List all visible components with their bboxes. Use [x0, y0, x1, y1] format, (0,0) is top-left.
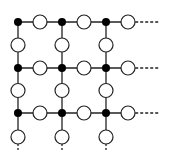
filled-node	[14, 18, 22, 26]
filled-node	[102, 64, 110, 72]
lattice-diagram	[0, 0, 172, 156]
filled-node	[14, 109, 22, 117]
filled-node	[102, 18, 110, 26]
open-node	[33, 106, 47, 120]
open-node	[121, 61, 135, 75]
open-node	[77, 15, 91, 29]
open-node	[77, 61, 91, 75]
open-node	[99, 84, 113, 98]
filled-node	[102, 109, 110, 117]
open-node	[11, 38, 25, 52]
open-node	[55, 130, 69, 144]
open-node	[55, 38, 69, 52]
open-node	[121, 106, 135, 120]
open-node	[33, 61, 47, 75]
open-node	[11, 84, 25, 98]
filled-node	[14, 64, 22, 72]
filled-node	[58, 18, 66, 26]
open-node	[33, 15, 47, 29]
open-node	[55, 84, 69, 98]
open-node	[121, 15, 135, 29]
filled-node	[58, 64, 66, 72]
open-node	[77, 106, 91, 120]
filled-node	[58, 109, 66, 117]
open-node	[99, 130, 113, 144]
open-node	[11, 130, 25, 144]
open-node	[99, 38, 113, 52]
